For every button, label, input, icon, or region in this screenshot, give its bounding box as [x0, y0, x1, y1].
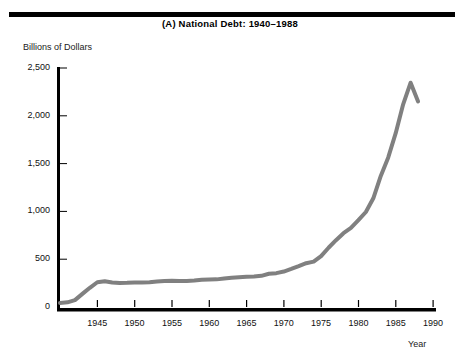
- y-tick-label: 2,000: [8, 110, 50, 120]
- x-tick-1955: [171, 300, 172, 307]
- y-tick-label: 2,500: [8, 62, 50, 72]
- plot-area: 05001,0001,5002,0002,500 194519501955196…: [0, 0, 460, 361]
- y-axis-spine: [57, 67, 60, 311]
- x-tick-1960: [209, 300, 210, 307]
- x-tick-label: 1950: [115, 318, 155, 328]
- chart-canvas: [0, 0, 460, 361]
- x-tick-label: 1975: [301, 318, 341, 328]
- y-tick-2500: [60, 68, 67, 69]
- x-tick-label: 1965: [227, 318, 267, 328]
- x-tick-1945: [97, 300, 98, 307]
- x-tick-label: 1970: [264, 318, 304, 328]
- y-tick-1000: [60, 211, 67, 212]
- x-tick-1970: [283, 300, 284, 307]
- x-tick-label: 1960: [189, 318, 229, 328]
- y-tick-label: 0: [8, 301, 50, 311]
- y-tick-2000: [60, 115, 67, 116]
- x-tick-1975: [321, 300, 322, 307]
- x-tick-label: 1985: [376, 318, 416, 328]
- x-tick-label: 1955: [152, 318, 192, 328]
- y-tick-1500: [60, 163, 67, 164]
- x-tick-label: 1945: [77, 318, 117, 328]
- x-tick-1990: [433, 300, 434, 307]
- y-tick-label: 1,000: [8, 205, 50, 215]
- x-tick-1950: [134, 300, 135, 307]
- figure-panel: (A) National Debt: 1940–1988 Billions of…: [0, 0, 460, 361]
- y-tick-label: 1,500: [8, 158, 50, 168]
- y-tick-label: 500: [8, 253, 50, 263]
- x-tick-1980: [358, 300, 359, 307]
- x-axis-spine: [57, 308, 436, 312]
- y-tick-500: [60, 259, 67, 260]
- x-tick-label: 1990: [413, 318, 453, 328]
- x-tick-label: 1980: [338, 318, 378, 328]
- x-tick-1965: [246, 300, 247, 307]
- debt-series-line: [60, 83, 418, 303]
- x-tick-1985: [395, 300, 396, 307]
